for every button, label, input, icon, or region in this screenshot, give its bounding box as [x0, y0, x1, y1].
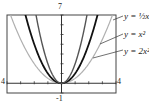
- y-min-label: -1: [56, 95, 63, 103]
- x-max-label: 4: [117, 78, 121, 86]
- legend-label-half-x: y = ½x: [124, 12, 149, 21]
- label-leaders: [93, 16, 123, 58]
- y-max-label: 7: [58, 3, 62, 11]
- legend-label-x-squared: y = x²: [124, 30, 145, 39]
- leader-line: [100, 34, 123, 44]
- x-min-label: 4: [1, 78, 5, 86]
- axes: [7, 15, 116, 93]
- leader-line: [93, 50, 123, 58]
- leader-line: [113, 16, 123, 20]
- legend-label-2x-squared: y = 2x²: [124, 47, 149, 56]
